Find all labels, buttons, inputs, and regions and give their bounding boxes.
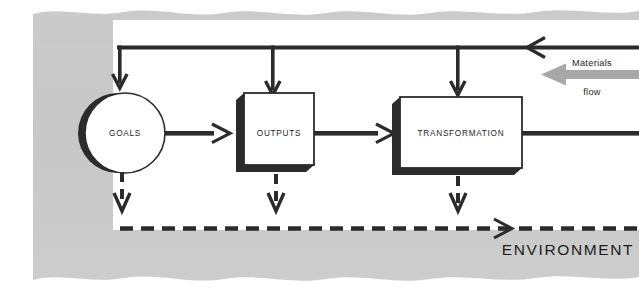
environment-label: ENVIRONMENT xyxy=(502,241,634,258)
feedback-drop-goals xyxy=(118,46,122,84)
node-goals[interactable]: GOALS xyxy=(78,93,165,173)
goals-label: GOALS xyxy=(109,129,141,138)
flow-transformation-to-edge xyxy=(518,131,639,136)
feedback-drop-outputs xyxy=(271,46,275,91)
feedback-drop-transformation xyxy=(456,46,460,91)
node-outputs[interactable]: OUTPUTS xyxy=(236,93,314,172)
outputs-label: OUTPUTS xyxy=(257,129,301,138)
systems-diagram-svg: Materials flow GOALS OUTPUTS xyxy=(0,0,639,288)
feedback-trunk-line xyxy=(117,46,639,50)
materials-flow-label-top: Materials xyxy=(572,58,612,68)
node-transformation[interactable]: TRANSFORMATION xyxy=(392,97,522,175)
materials-flow-label-bottom: flow xyxy=(583,87,601,97)
diagram-canvas: Materials flow GOALS OUTPUTS xyxy=(0,0,639,288)
flow-goals-to-outputs xyxy=(158,131,214,136)
flow-outputs-to-transformation xyxy=(310,131,378,136)
transformation-label: TRANSFORMATION xyxy=(418,129,505,138)
